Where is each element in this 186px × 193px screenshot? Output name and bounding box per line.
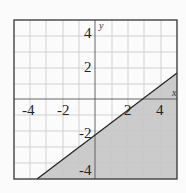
- x-axis-label: x: [172, 88, 176, 98]
- x-tick-4: 4: [156, 103, 164, 118]
- graph-canvas: [0, 0, 186, 193]
- x-tick-neg2: -2: [57, 103, 70, 118]
- y-tick-neg2: -2: [79, 126, 92, 141]
- y-tick-neg4: -4: [79, 163, 92, 178]
- y-tick-2: 2: [84, 60, 92, 75]
- y-axis-label: y: [99, 21, 103, 31]
- y-tick-4: 4: [84, 26, 92, 41]
- x-tick-2: 2: [124, 103, 132, 118]
- x-tick-neg4: -4: [22, 103, 35, 118]
